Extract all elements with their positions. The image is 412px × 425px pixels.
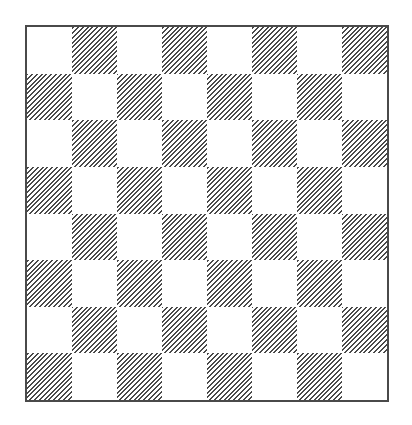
board-square-light[interactable] bbox=[252, 167, 297, 214]
board-square-dark[interactable] bbox=[162, 120, 207, 167]
board-square-light[interactable] bbox=[207, 214, 252, 261]
board-square-dark[interactable] bbox=[342, 120, 387, 167]
board-square-dark[interactable] bbox=[207, 74, 252, 121]
board-square-light[interactable] bbox=[72, 167, 117, 214]
board-square-dark[interactable] bbox=[72, 307, 117, 354]
board-square-light[interactable] bbox=[207, 307, 252, 354]
board-square-light[interactable] bbox=[27, 120, 72, 167]
board-square-light[interactable] bbox=[72, 74, 117, 121]
board-square-dark[interactable] bbox=[72, 214, 117, 261]
board-square-dark[interactable] bbox=[117, 260, 162, 307]
board-square-light[interactable] bbox=[252, 74, 297, 121]
board-square-light[interactable] bbox=[27, 214, 72, 261]
board-square-dark[interactable] bbox=[27, 167, 72, 214]
board-square-dark[interactable] bbox=[342, 214, 387, 261]
board-square-dark[interactable] bbox=[297, 353, 342, 400]
board-square-dark[interactable] bbox=[27, 74, 72, 121]
board-square-light[interactable] bbox=[162, 167, 207, 214]
board-square-dark[interactable] bbox=[27, 353, 72, 400]
board-square-dark[interactable] bbox=[342, 27, 387, 74]
board-square-light[interactable] bbox=[162, 353, 207, 400]
board-square-light[interactable] bbox=[117, 27, 162, 74]
board-square-light[interactable] bbox=[297, 27, 342, 74]
board-square-dark[interactable] bbox=[117, 353, 162, 400]
board-square-dark[interactable] bbox=[207, 260, 252, 307]
board-square-light[interactable] bbox=[342, 353, 387, 400]
board-square-dark[interactable] bbox=[252, 214, 297, 261]
board-square-dark[interactable] bbox=[72, 120, 117, 167]
board-square-light[interactable] bbox=[162, 260, 207, 307]
board-square-light[interactable] bbox=[117, 120, 162, 167]
board-square-light[interactable] bbox=[207, 27, 252, 74]
board-square-light[interactable] bbox=[342, 74, 387, 121]
board-square-dark[interactable] bbox=[162, 214, 207, 261]
board-square-dark[interactable] bbox=[297, 167, 342, 214]
board-square-light[interactable] bbox=[252, 260, 297, 307]
board-square-dark[interactable] bbox=[297, 260, 342, 307]
board-square-dark[interactable] bbox=[252, 27, 297, 74]
board-square-light[interactable] bbox=[117, 214, 162, 261]
board-square-light[interactable] bbox=[27, 27, 72, 74]
board-square-dark[interactable] bbox=[342, 307, 387, 354]
board-square-dark[interactable] bbox=[162, 27, 207, 74]
board-square-light[interactable] bbox=[72, 353, 117, 400]
board-square-light[interactable] bbox=[297, 307, 342, 354]
board-square-dark[interactable] bbox=[162, 307, 207, 354]
board-square-light[interactable] bbox=[27, 307, 72, 354]
board-square-light[interactable] bbox=[72, 260, 117, 307]
board-square-light[interactable] bbox=[207, 120, 252, 167]
board-square-dark[interactable] bbox=[297, 74, 342, 121]
board-square-dark[interactable] bbox=[72, 27, 117, 74]
board-square-light[interactable] bbox=[252, 353, 297, 400]
board-square-light[interactable] bbox=[342, 167, 387, 214]
checkerboard bbox=[25, 25, 389, 402]
board-square-dark[interactable] bbox=[252, 120, 297, 167]
board-square-dark[interactable] bbox=[117, 74, 162, 121]
board-square-light[interactable] bbox=[297, 214, 342, 261]
board-square-dark[interactable] bbox=[207, 353, 252, 400]
board-square-dark[interactable] bbox=[252, 307, 297, 354]
board-square-light[interactable] bbox=[297, 120, 342, 167]
board-square-light[interactable] bbox=[342, 260, 387, 307]
canvas bbox=[0, 0, 412, 425]
board-square-dark[interactable] bbox=[117, 167, 162, 214]
board-square-light[interactable] bbox=[162, 74, 207, 121]
board-square-dark[interactable] bbox=[207, 167, 252, 214]
board-square-light[interactable] bbox=[117, 307, 162, 354]
board-square-dark[interactable] bbox=[27, 260, 72, 307]
